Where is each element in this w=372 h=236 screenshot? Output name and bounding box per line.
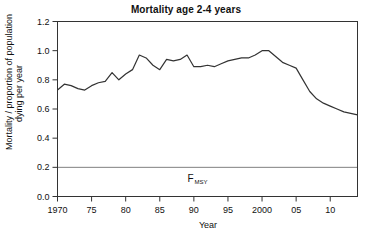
y-tick-label: 0.0 [37, 192, 50, 202]
x-tick-label: 2000 [252, 205, 272, 215]
y-tick-label: 1.2 [37, 17, 50, 27]
reference-lines: FMSY [58, 167, 358, 185]
x-tick-label: 85 [155, 205, 165, 215]
x-axis-title: Year [199, 220, 217, 230]
y-axis-title: Mortality / proportion of population dyi… [4, 14, 24, 150]
data-series-group [58, 51, 358, 115]
plot-frame [58, 22, 358, 197]
x-tick-label: 10 [325, 205, 335, 215]
y-tick-label: 0.6 [37, 104, 50, 114]
data-line-mortality [58, 51, 358, 115]
chart-figure: Mortality age 2-4 years Mortality / prop… [0, 0, 372, 236]
x-tick-label: 80 [121, 205, 131, 215]
y-axis-title-line2: dying per year [14, 65, 24, 122]
y-tick-label: 0.4 [37, 133, 50, 143]
y-tick-label: 0.2 [37, 162, 50, 172]
x-tick-label: 95 [223, 205, 233, 215]
fmsy-label-subscript: MSY [194, 179, 207, 185]
x-tick-label: 1970 [47, 205, 67, 215]
fmsy-label: F [187, 173, 193, 184]
x-tick-label: 90 [189, 205, 199, 215]
x-axis-ticks: 1970758085909520000510 [47, 197, 335, 215]
y-tick-label: 1.0 [37, 46, 50, 56]
y-axis-title-line1: Mortality / proportion of population [4, 14, 14, 150]
x-tick-label: 75 [87, 205, 97, 215]
mortality-line-chart: Mortality / proportion of population dyi… [0, 0, 372, 236]
y-axis-ticks: 0.00.20.40.60.81.01.2 [37, 17, 58, 202]
y-tick-label: 0.8 [37, 75, 50, 85]
x-tick-label: 05 [291, 205, 301, 215]
